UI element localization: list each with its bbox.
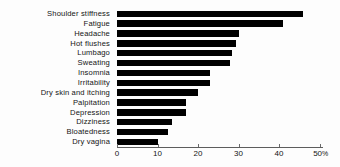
x-axis-tick-label: 40	[275, 149, 284, 159]
category-label: Lumbago	[77, 48, 110, 58]
bar	[117, 70, 210, 76]
x-axis-tick-label: 0	[115, 149, 119, 159]
category-label: Depression	[70, 108, 110, 118]
bar	[117, 119, 172, 125]
bar	[117, 30, 239, 36]
bar-row	[117, 117, 322, 127]
category-label: Palpitation	[73, 98, 110, 108]
bar	[117, 129, 168, 135]
bar-row	[117, 58, 322, 68]
bar-row	[117, 127, 322, 137]
bar	[117, 109, 186, 115]
bar-row	[117, 9, 322, 19]
bar	[117, 40, 236, 46]
category-label: Shoulder stiffness	[47, 9, 110, 19]
x-axis-line	[117, 147, 323, 148]
bar-row	[117, 39, 322, 49]
category-label: Insomnia	[78, 68, 110, 78]
plot-area	[117, 9, 322, 147]
bar-row	[117, 78, 322, 88]
bar-row	[117, 108, 322, 118]
category-axis-labels: Shoulder stiffnessFatigueHeadacheHot flu…	[0, 9, 114, 147]
x-axis-tick	[239, 144, 240, 147]
bar	[117, 11, 303, 17]
bar	[117, 50, 232, 56]
x-axis-tick	[117, 144, 118, 147]
bar	[117, 99, 186, 105]
bar	[117, 20, 283, 26]
category-label: Dizziness	[76, 117, 110, 127]
bar-row	[117, 88, 322, 98]
category-label: Dry vagina	[72, 137, 110, 147]
category-label: Sweating	[78, 58, 110, 68]
x-axis-tick	[320, 144, 321, 147]
bar-row	[117, 98, 322, 108]
category-label: Irritability	[78, 78, 110, 88]
category-label: Dry skin and itching	[41, 88, 110, 98]
bar	[117, 89, 198, 95]
bar	[117, 139, 158, 145]
bar-row	[117, 48, 322, 58]
bar-row	[117, 137, 322, 147]
bar-row	[117, 68, 322, 78]
x-axis-tick-label: 10	[153, 149, 162, 159]
bar-row	[117, 29, 322, 39]
category-label: Hot flushes	[70, 39, 110, 49]
x-axis-tick-label: 30	[234, 149, 243, 159]
x-axis-tick	[198, 144, 199, 147]
x-axis-tick	[279, 144, 280, 147]
bar	[117, 80, 210, 86]
bar	[117, 60, 230, 66]
x-axis-tick	[158, 144, 159, 147]
x-axis-tick-label: 50%	[313, 149, 328, 159]
category-label: Headache	[74, 29, 110, 39]
horizontal-bar-chart: Shoulder stiffnessFatigueHeadacheHot flu…	[0, 0, 340, 167]
bar-row	[117, 19, 322, 29]
category-label: Bloatedness	[67, 127, 110, 137]
x-axis-tick-label: 20	[194, 149, 203, 159]
category-label: Fatigue	[84, 19, 110, 29]
